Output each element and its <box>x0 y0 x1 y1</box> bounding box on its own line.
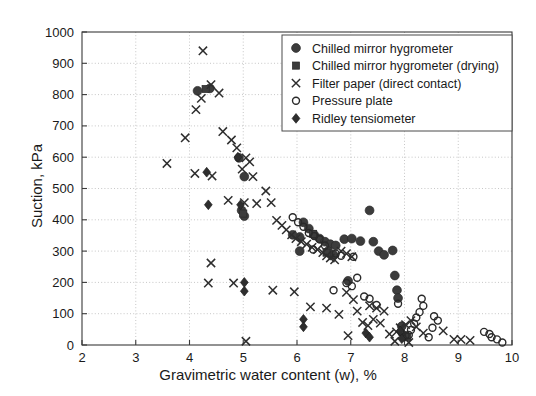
data-point-cross <box>419 329 427 337</box>
data-point-circle-filled <box>380 250 389 259</box>
data-point-cross <box>191 169 199 177</box>
x-tick-label: 4 <box>186 350 193 365</box>
data-point-diamond <box>300 322 308 332</box>
x-tick-label: 6 <box>293 350 300 365</box>
data-point-cross <box>233 144 241 152</box>
y-tick-label: 300 <box>52 244 74 259</box>
data-point-square-filled <box>240 210 247 217</box>
x-tick-label: 10 <box>505 350 519 365</box>
legend-item-label: Chilled mirror hygrometer (drying) <box>312 59 499 73</box>
data-point-cross <box>466 336 474 344</box>
legend-item-label: Ridley tensiometer <box>312 112 416 126</box>
data-point-circle-filled <box>393 286 402 295</box>
data-point-diamond <box>240 286 248 296</box>
legend-item[interactable]: Chilled mirror hygrometer (drying) <box>292 59 498 73</box>
data-point-cross <box>249 172 257 180</box>
data-point-cross <box>380 307 388 315</box>
data-point-diamond <box>203 167 211 177</box>
legend: Chilled mirror hygrometerChilled mirror … <box>282 35 512 131</box>
data-point-cross <box>238 165 246 173</box>
legend-item-label: Filter paper (direct contact) <box>312 77 461 91</box>
data-point-circle-filled <box>388 246 397 255</box>
data-point-circle-filled <box>240 172 249 181</box>
y-tick-label: 900 <box>52 56 74 71</box>
x-tick-label: 8 <box>401 350 408 365</box>
data-point-cross <box>219 127 227 135</box>
data-point-cross <box>224 196 232 204</box>
y-tick-label: 600 <box>52 150 74 165</box>
data-point-circle-open <box>418 295 425 302</box>
x-tick-label: 3 <box>132 350 139 365</box>
data-point-cross <box>181 134 189 142</box>
data-point-circle-filled <box>390 271 399 280</box>
plot-canvas: 0100200300400500600700800900100023456789… <box>0 0 536 396</box>
y-tick-label: 400 <box>52 212 74 227</box>
x-tick-label: 5 <box>240 350 247 365</box>
data-point-square-filled <box>292 62 299 69</box>
data-point-cross <box>192 105 200 113</box>
data-point-circle-open <box>434 317 441 324</box>
data-point-cross <box>246 158 254 166</box>
y-axis-label: Suction, kPa <box>28 86 45 286</box>
data-point-circle-open <box>354 274 361 281</box>
data-point-circle-filled <box>347 234 356 243</box>
data-point-cross <box>335 310 343 318</box>
data-point-circle-filled <box>365 206 374 215</box>
data-point-cross <box>322 304 330 312</box>
data-point-cross <box>197 94 205 102</box>
data-point-cross <box>163 159 171 167</box>
data-point-cross <box>229 279 237 287</box>
y-tick-label: 200 <box>52 275 74 290</box>
data-point-cross <box>262 187 270 195</box>
y-tick-label: 500 <box>52 181 74 196</box>
x-tick-label: 2 <box>78 350 85 365</box>
data-point-cross <box>391 337 399 345</box>
data-point-circle-filled <box>369 237 378 246</box>
y-tick-label: 800 <box>52 87 74 102</box>
data-point-cross <box>269 286 277 294</box>
data-point-circle-open <box>429 324 436 331</box>
data-point-cross <box>253 199 261 207</box>
data-point-diamond <box>204 200 212 210</box>
data-point-circle-open <box>425 334 432 341</box>
data-point-cross <box>450 335 458 343</box>
legend-item[interactable]: Filter paper (direct contact) <box>292 77 461 91</box>
y-tick-label: 0 <box>67 338 74 353</box>
x-tick-label: 7 <box>347 350 354 365</box>
scatter-chart-figure: 0100200300400500600700800900100023456789… <box>0 0 536 396</box>
data-point-cross <box>344 331 352 339</box>
data-point-circle-filled <box>356 237 365 246</box>
data-point-cross <box>349 295 357 303</box>
data-point-cross <box>385 330 393 338</box>
data-point-cross <box>306 303 314 311</box>
data-point-cross <box>215 89 223 97</box>
data-point-cross <box>227 136 235 144</box>
data-point-circle-filled <box>292 44 301 53</box>
y-tick-label: 700 <box>52 118 74 133</box>
data-point-cross <box>204 279 212 287</box>
x-tick-label: 9 <box>455 350 462 365</box>
data-point-cross <box>199 47 207 55</box>
legend-item[interactable]: Chilled mirror hygrometer <box>292 42 453 56</box>
data-point-circle-filled <box>344 276 353 285</box>
data-point-circle-open <box>330 287 337 294</box>
legend-item-label: Pressure plate <box>312 94 393 108</box>
y-tick-label: 100 <box>52 306 74 321</box>
x-axis-label: Gravimetric water content (w), % <box>0 366 536 383</box>
legend-item-label: Chilled mirror hygrometer <box>312 42 453 56</box>
data-point-cross <box>267 198 275 206</box>
data-point-cross <box>439 327 447 335</box>
y-tick-label: 1000 <box>45 25 74 40</box>
data-point-cross <box>207 259 215 267</box>
